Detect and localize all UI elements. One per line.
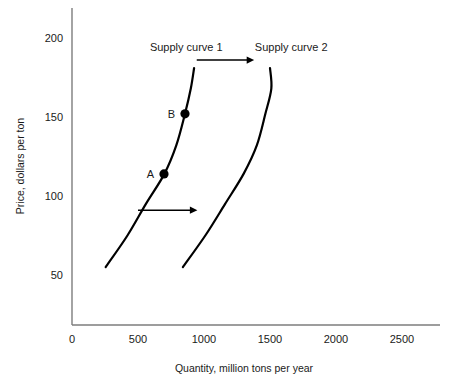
curve-labels-group: Supply curve 1Supply curve 2 [150, 41, 328, 53]
x-tick-label: 2500 [390, 333, 414, 345]
data-point-b-label: B [168, 108, 175, 120]
axes-group [72, 8, 440, 325]
x-axis-title: Quantity, million tons per year [175, 362, 314, 374]
y-tick-label: 100 [45, 190, 63, 202]
data-point-b [180, 109, 189, 118]
x-tick-label: 0 [69, 333, 75, 345]
y-tick-label: 50 [51, 269, 63, 281]
y-axis-tick-labels: 50100150200 [45, 32, 63, 281]
chart-canvas: 50100150200 05001000150020002500 AB Supp… [0, 0, 458, 384]
data-point-a-label: A [147, 168, 155, 180]
supply-curve-2-label: Supply curve 2 [255, 41, 328, 53]
shift-arrow-upper-head [247, 57, 255, 64]
x-tick-label: 2000 [324, 333, 348, 345]
y-tick-label: 200 [45, 32, 63, 44]
x-tick-label: 1000 [192, 333, 216, 345]
x-tick-label: 500 [129, 333, 147, 345]
supply-curves-group [106, 68, 272, 267]
x-tick-label: 1500 [258, 333, 282, 345]
y-tick-label: 150 [45, 111, 63, 123]
y-axis-title: Price, dollars per ton [14, 118, 26, 214]
data-point-a [159, 169, 168, 178]
shift-arrow-lower-head [190, 207, 198, 214]
supply-curve-1-label: Supply curve 1 [150, 41, 223, 53]
x-axis-tick-labels: 05001000150020002500 [69, 333, 414, 345]
supply-curve-2 [183, 68, 272, 267]
supply-shift-chart: 50100150200 05001000150020002500 AB Supp… [0, 0, 458, 384]
